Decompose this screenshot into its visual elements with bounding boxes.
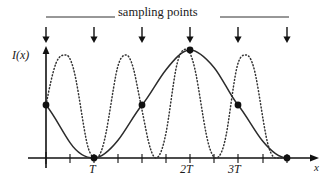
sample-dot-5 [235, 102, 242, 109]
sampling-arrow-1 [42, 27, 49, 43]
axes [28, 46, 319, 168]
sampling-arrow-5 [234, 27, 241, 43]
sampling-arrow-4 [186, 27, 193, 43]
sampling-arrows [42, 27, 290, 43]
sample-dot-1 [43, 102, 50, 109]
sample-dot-6 [284, 155, 291, 162]
x-tick-label-3T: 3T [228, 163, 241, 175]
sample-dot-3 [139, 102, 146, 109]
sampling-arrow-2 [90, 27, 97, 43]
sampling-arrow-3 [138, 27, 145, 43]
y-axis-label: I(x) [12, 49, 29, 61]
sampling-aliasing-figure: sampling points I(x) x T 2T 3T [0, 0, 330, 186]
sample-dot-2 [91, 155, 98, 162]
plot-canvas [0, 0, 330, 186]
aliased-curve [46, 50, 287, 158]
y-axis-arrowhead [43, 46, 50, 54]
sampling-arrow-6 [283, 27, 290, 43]
x-axis-label: x [314, 162, 319, 173]
x-tick-label-T: T [89, 163, 96, 175]
sample-dot-4 [187, 47, 194, 54]
high-frequency-curve [46, 49, 287, 158]
sampling-points-caption: sampling points [118, 6, 198, 19]
x-tick-label-2T: 2T [180, 163, 193, 175]
